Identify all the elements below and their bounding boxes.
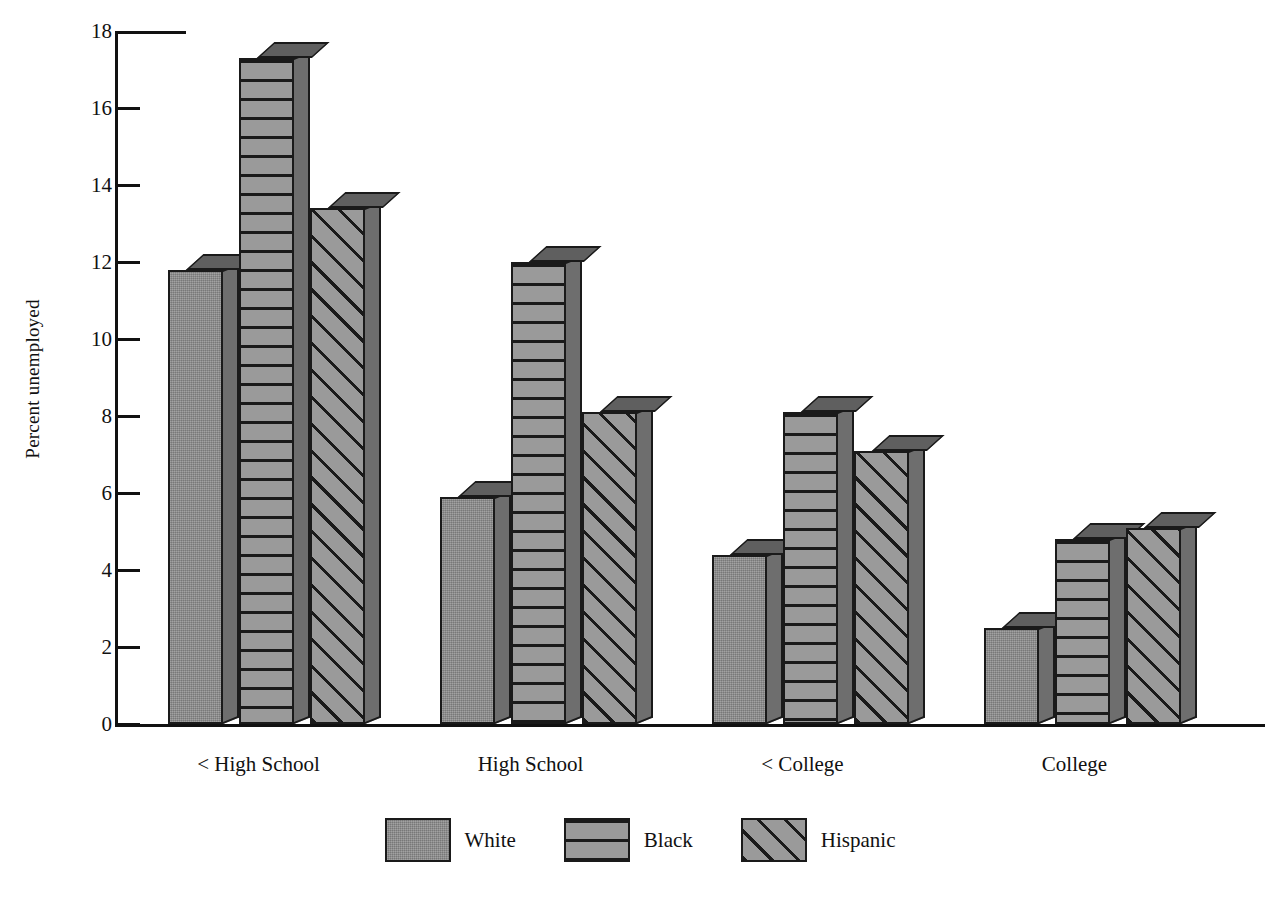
legend-swatch-white [385,818,451,862]
legend-label-hispanic: Hispanic [821,828,896,853]
y-tick-mark [118,338,140,341]
bar-front-face [440,497,495,724]
plot-area: 024681012141618 [115,31,1265,724]
bar-white-3 [712,555,767,724]
bar-front-face [854,451,909,724]
bar-side-face [1039,621,1055,724]
bar-hispanic-1 [310,208,365,724]
bar-white-4 [984,628,1039,724]
bar-side-face [767,548,783,724]
bar-top-face [529,246,602,262]
y-tick-label: 18 [52,21,112,42]
bar-side-face [223,263,239,724]
y-axis-title: Percent unemployed [22,269,44,489]
bar-front-face [239,58,294,724]
y-tick-label: 2 [52,637,112,658]
bar-front-face [1126,528,1181,724]
y-tick-mark [118,415,140,418]
y-tick-mark [118,31,186,34]
x-axis-label-group-1: < High School [128,752,389,777]
legend-item-hispanic: Hispanic [741,818,896,862]
bar-front-face [984,628,1039,724]
bar-top-face [257,42,330,58]
bar-front-face [783,412,838,724]
bar-side-face [838,406,854,724]
legend-swatch-black [564,818,630,862]
bar-top-face [872,435,945,451]
bar-white-1 [168,270,223,724]
bar-top-face [801,396,874,412]
y-tick-label: 8 [52,406,112,427]
bar-front-face [310,208,365,724]
y-tick-label: 16 [52,98,112,119]
bar-top-face [600,396,673,412]
y-tick-label: 4 [52,560,112,581]
y-tick-mark [118,492,140,495]
bar-hispanic-3 [854,451,909,724]
bar-front-face [168,270,223,724]
bar-side-face [495,490,511,724]
x-axis-line [115,724,1265,727]
y-tick-label: 0 [52,714,112,735]
bar-side-face [637,406,653,724]
legend-label-white: White [465,828,516,853]
bar-black-3 [783,412,838,724]
bar-black-1 [239,58,294,724]
x-axis-label-group-3: < College [672,752,933,777]
bar-side-face [909,444,925,724]
bar-hispanic-2 [582,412,637,724]
y-tick-mark [118,184,140,187]
x-axis-label-group-4: College [944,752,1205,777]
bar-front-face [511,262,566,724]
bar-top-face [1144,512,1217,528]
bar-front-face [1055,539,1110,724]
x-axis-label-group-2: High School [400,752,661,777]
y-tick-mark [118,261,140,264]
y-tick-mark [118,723,140,726]
y-tick-mark [118,646,140,649]
bar-side-face [365,202,381,724]
y-axis-line [115,31,118,725]
y-tick-label: 14 [52,175,112,196]
bar-side-face [1110,533,1126,724]
legend-swatch-hispanic [741,818,807,862]
bar-hispanic-4 [1126,528,1181,724]
bar-front-face [582,412,637,724]
bar-top-face [328,192,401,208]
y-tick-mark [118,107,140,110]
legend-item-black: Black [564,818,693,862]
bar-black-4 [1055,539,1110,724]
legend-label-black: Black [644,828,693,853]
y-tick-label: 10 [52,329,112,350]
legend-item-white: White [385,818,516,862]
bar-black-2 [511,262,566,724]
bar-side-face [1181,521,1197,724]
bar-side-face [566,256,582,724]
bar-front-face [712,555,767,724]
bar-white-2 [440,497,495,724]
y-tick-mark [118,569,140,572]
y-tick-label: 12 [52,252,112,273]
chart-legend: WhiteBlackHispanic [0,818,1280,862]
bar-chart: Percent unemployed 024681012141618 < Hig… [0,0,1280,899]
y-tick-label: 6 [52,483,112,504]
bar-side-face [294,51,310,724]
